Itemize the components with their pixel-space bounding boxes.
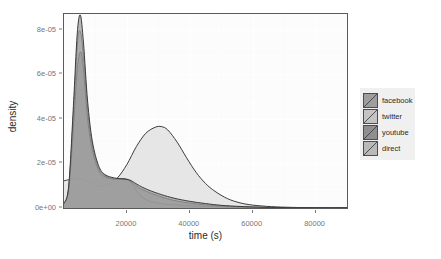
x-tick-label: 80000: [304, 219, 325, 228]
y-tick-mark: [59, 28, 62, 29]
legend-label-twitter: twitter: [382, 112, 402, 121]
density-area-facebook: [64, 15, 347, 208]
y-tick-label: 8e-05: [37, 24, 56, 33]
legend-label-youtube: youtube: [382, 128, 409, 137]
y-tick-label: 2e-05: [37, 158, 56, 167]
density-series-facebook: [64, 15, 347, 208]
legend-item-direct[interactable]: direct: [363, 140, 412, 156]
y-tick-label: 0e+00: [35, 203, 56, 212]
x-tick-mark: [189, 210, 190, 213]
x-tick-label: 60000: [241, 219, 262, 228]
x-tick-mark: [126, 210, 127, 213]
x-axis-title: time (s): [63, 230, 348, 241]
density-curves: [64, 14, 347, 208]
legend-swatch-direct: [363, 141, 378, 156]
legend-item-twitter[interactable]: twitter: [363, 108, 412, 124]
legend-swatch-facebook: [363, 93, 378, 108]
legend-label-facebook: facebook: [382, 96, 412, 105]
legend-item-facebook[interactable]: facebook: [363, 92, 412, 108]
x-tick-mark: [252, 210, 253, 213]
y-tick-label: 4e-05: [37, 113, 56, 122]
grid-line-horizontal: [64, 208, 347, 209]
grid-line-vertical-minor: [347, 14, 348, 208]
y-axis-title: density: [7, 72, 18, 162]
y-tick-label: 6e-05: [37, 69, 56, 78]
density-plot-figure: 0e+002e-054e-056e-058e-05 20000400006000…: [0, 0, 441, 259]
legend-swatch-twitter: [363, 109, 378, 124]
legend-item-youtube[interactable]: youtube: [363, 124, 412, 140]
x-tick-label: 40000: [178, 219, 199, 228]
y-tick-mark: [59, 117, 62, 118]
y-tick-mark: [59, 162, 62, 163]
y-tick-mark: [59, 207, 62, 208]
legend-swatch-youtube: [363, 125, 378, 140]
x-tick-label: 20000: [115, 219, 136, 228]
y-tick-mark: [59, 73, 62, 74]
legend-label-direct: direct: [382, 144, 400, 153]
plot-panel: [63, 13, 348, 209]
x-tick-mark: [315, 210, 316, 213]
legend: facebook twitter youtube: [360, 88, 415, 160]
